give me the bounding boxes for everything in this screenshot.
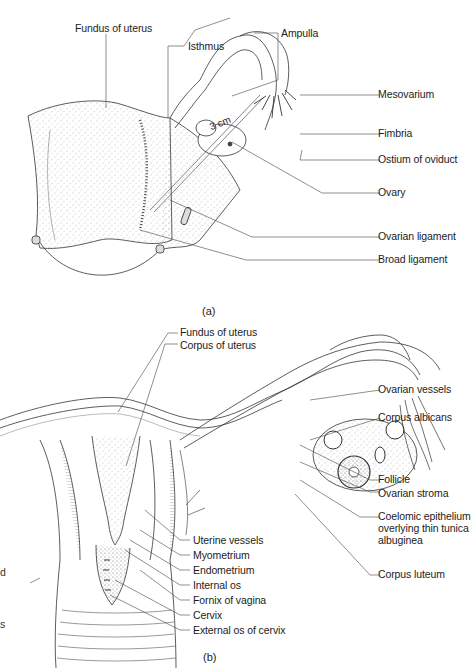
label-cervix: Cervix [193,609,222,621]
label-ovarian-stroma: Ovarian stroma [378,487,448,499]
panel-label-b: (b) [203,651,216,663]
label-fimbria: Fimbria [378,127,412,139]
label-corpus-of-uterus: Corpus of uterus [180,339,256,351]
label-coelomic-epithelium: Coelomic epithelium overlying thin tunic… [378,510,473,546]
label-ostium-of-oviduct: Ostium of oviduct [378,153,457,165]
label-mesovarium: Mesovarium [378,88,434,100]
label-external-os-of-cervix: External os of cervix [193,624,285,636]
label-isthmus: Isthmus [188,40,224,52]
label-corpus-luteum: Corpus luteum [378,568,445,580]
panel-label-a: (a) [202,305,215,317]
label-myometrium: Myometrium [193,549,250,561]
clipped-label-fragment: s [0,618,5,630]
label-fundus-of-uterus-a: Fundus of uterus [75,22,152,34]
figure-a-drawing [28,32,296,276]
label-broad-ligament: Broad ligament [378,253,447,265]
label-ovarian-ligament: Ovarian ligament [378,230,456,242]
label-fundus-of-uterus-b: Fundus of uterus [180,326,257,338]
label-uterine-vessels: Uterine vessels [193,534,263,546]
label-internal-os: Internal os [193,579,241,591]
label-ovary: Ovary [378,186,406,198]
label-endometrium: Endometrium [193,564,254,576]
label-corpus-albicans: Corpus albicans [378,411,452,423]
clipped-label-fragment: d [0,566,6,578]
label-fornix-of-vagina: Fornix of vagina [193,594,266,606]
label-ampulla: Ampulla [281,27,318,39]
label-follicle: Follicle [378,473,410,485]
label-ovarian-vessels: Ovarian vessels [378,383,451,395]
